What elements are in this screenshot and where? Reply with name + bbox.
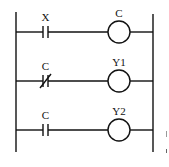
contact-label-3: C	[42, 109, 49, 121]
coil-y2	[108, 119, 130, 141]
edge-mark-2	[166, 149, 167, 153]
rung-1	[16, 21, 153, 43]
ladder-diagram: X C C Y1 C Y2	[0, 0, 169, 167]
coil-y1	[108, 70, 130, 92]
edge-mark-1	[166, 131, 167, 137]
coil-c	[108, 21, 130, 43]
contact-label-2: C	[42, 60, 49, 72]
coil-label-1: C	[115, 7, 122, 19]
coil-label-2: Y1	[112, 56, 125, 68]
rung-3	[16, 119, 153, 141]
contact-label-1: X	[42, 11, 50, 23]
rung-2	[16, 70, 153, 92]
coil-label-3: Y2	[112, 105, 125, 117]
